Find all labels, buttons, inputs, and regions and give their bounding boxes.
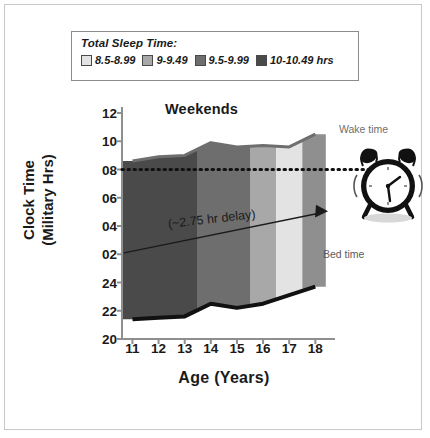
x-tick-label-16: 16 (250, 341, 276, 356)
wake-time-annotation: Wake time (339, 123, 388, 135)
x-axis-ticks: 1112131415161718 (5, 341, 423, 361)
y-tick-label-12: 12 (87, 106, 117, 121)
y-tick-label-02: 02 (87, 247, 117, 262)
y-axis-title-line1: Clock Time (19, 125, 38, 275)
figure-frame: Total Sleep Time: 8.5-8.99 9-9.49 9.5-9.… (4, 4, 422, 430)
y-tick-label-24: 24 (87, 275, 117, 290)
y-axis-title-line2: (Military Hrs) (38, 125, 57, 275)
x-tick-label-18: 18 (302, 341, 328, 356)
x-tick-label-15: 15 (224, 341, 250, 356)
x-tick-label-12: 12 (146, 341, 172, 356)
alarm-clock-icon (350, 141, 426, 225)
y-axis-title: Clock Time (Military Hrs) (19, 125, 57, 275)
x-axis-title: Age (Years) (114, 369, 334, 387)
x-tick-label-11: 11 (119, 341, 145, 356)
x-tick-label-17: 17 (276, 341, 302, 356)
band-0 (122, 149, 198, 319)
plot-area: Weekends 121008060402242220 111213141516… (5, 5, 423, 431)
bed-time-annotation: Bed time (323, 248, 364, 260)
y-tick-label-04: 04 (87, 219, 117, 234)
x-tick-label-14: 14 (198, 341, 224, 356)
y-tick-label-08: 08 (87, 162, 117, 177)
x-tick-label-13: 13 (172, 341, 198, 356)
y-tick-label-22: 22 (87, 303, 117, 318)
y-tick-label-10: 10 (87, 134, 117, 149)
y-tick-label-06: 06 (87, 190, 117, 205)
y-axis-ticks: 121008060402242220 (85, 5, 117, 431)
